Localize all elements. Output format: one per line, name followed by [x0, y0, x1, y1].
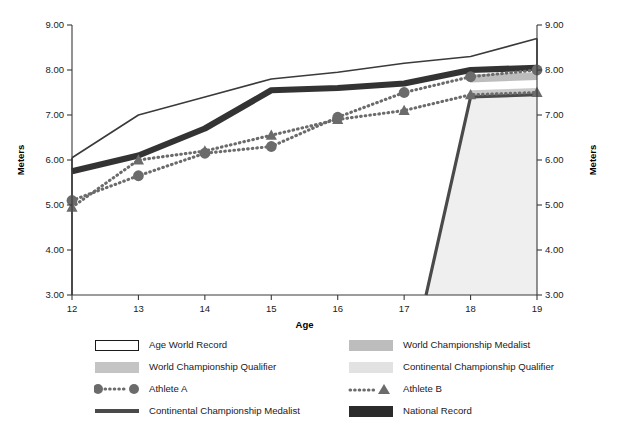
- y-axis-tick-label-left: 8.00: [46, 64, 65, 75]
- y-axis-tick-label-right: 8.00: [545, 64, 564, 75]
- legend-item-label: Athlete B: [403, 384, 442, 394]
- y-axis-tick-label-left: 9.00: [46, 19, 65, 30]
- legend-item[interactable]: Age World Record: [94, 334, 300, 356]
- x-axis-tick-label: 17: [399, 303, 410, 314]
- y-axis-tick-label-right: 3.00: [545, 289, 564, 300]
- legend-item[interactable]: World Championship Medalist: [348, 334, 554, 356]
- x-axis-tick-label: 13: [133, 303, 144, 314]
- legend-item[interactable]: National Record: [348, 400, 554, 422]
- x-axis-tick-label: 14: [200, 303, 211, 314]
- legend-item[interactable]: Athlete B: [348, 378, 554, 400]
- y-axis-title-left: Meters: [15, 145, 26, 176]
- y-axis-tick-label-left: 3.00: [46, 289, 65, 300]
- x-axis-tick-label: 18: [465, 303, 476, 314]
- legend-swatch-filled-box-icon: [348, 338, 394, 352]
- legend-item-label: National Record: [403, 406, 472, 416]
- legend-item-label: World Championship Qualifier: [149, 362, 276, 372]
- legend-item[interactable]: Athlete A: [94, 378, 300, 400]
- legend-column-right: World Championship MedalistContinental C…: [348, 334, 554, 422]
- y-axis-tick-label-left: 6.00: [46, 154, 65, 165]
- y-axis-tick-label-right: 9.00: [545, 19, 564, 30]
- legend-item[interactable]: World Championship Qualifier: [94, 356, 300, 378]
- legend-item[interactable]: Continental Championship Medalist: [94, 400, 300, 422]
- x-axis-title: Age: [296, 319, 314, 330]
- y-axis-tick-label-right: 7.00: [545, 109, 564, 120]
- y-axis-tick-label-right: 6.00: [545, 154, 564, 165]
- y-axis-tick-label-right: 4.00: [545, 244, 564, 255]
- y-axis-tick-label-left: 4.00: [46, 244, 65, 255]
- y-axis-title-right: Meters: [587, 145, 598, 176]
- legend-swatch-thick-line-icon: [94, 404, 140, 418]
- legend-item-label: Athlete A: [149, 384, 187, 394]
- y-axis-tick-label-left: 5.00: [46, 199, 65, 210]
- line-chart-plot: 9.009.008.008.007.007.006.006.005.005.00…: [0, 0, 619, 330]
- legend-item-label: Age World Record: [149, 340, 227, 350]
- legend-swatch-filled-box-icon: [348, 360, 394, 374]
- chart-legend: Age World RecordWorld Championship Quali…: [0, 330, 619, 437]
- chart-root: 9.009.008.008.007.007.006.006.005.005.00…: [0, 0, 619, 437]
- legend-item-label: World Championship Medalist: [403, 340, 530, 350]
- legend-column-left: Age World RecordWorld Championship Quali…: [94, 334, 300, 422]
- x-axis-tick-label: 12: [67, 303, 78, 314]
- legend-swatch-dotted-circle-line-icon: [94, 382, 140, 396]
- legend-swatch-filled-box-icon: [348, 404, 394, 418]
- legend-swatch-filled-box-icon: [94, 360, 140, 374]
- y-axis-tick-label-left: 7.00: [46, 109, 65, 120]
- legend-item-label: Continental Championship Medalist: [149, 406, 300, 416]
- legend-item[interactable]: Continental Championship Qualifier: [348, 356, 554, 378]
- legend-swatch-dotted-triangle-line-icon: [348, 382, 394, 396]
- y-axis-tick-label-right: 5.00: [545, 199, 564, 210]
- x-axis-tick-label: 19: [532, 303, 543, 314]
- legend-swatch-outline-box-icon: [94, 338, 140, 352]
- x-axis-tick-label: 15: [266, 303, 277, 314]
- legend-item-label: Continental Championship Qualifier: [403, 362, 554, 372]
- x-axis-tick-label: 16: [332, 303, 343, 314]
